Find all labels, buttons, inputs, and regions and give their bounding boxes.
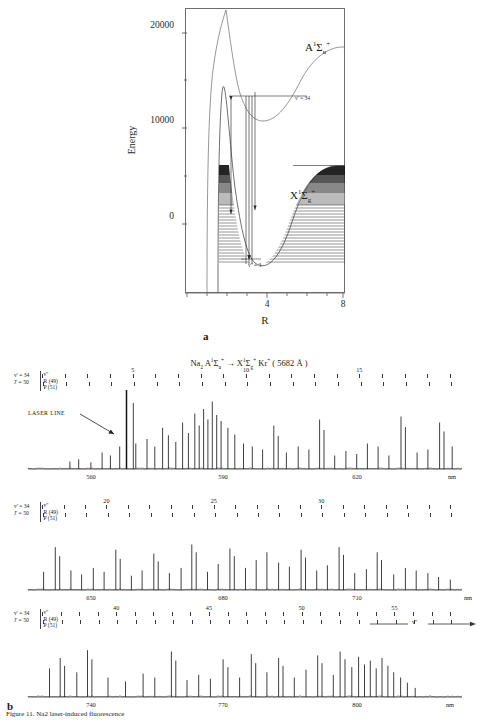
upper-state-label: A1Σu+ [305, 40, 330, 55]
vpp-tickrow-1-lower [0, 382, 498, 389]
wl-tick-680: 680 [218, 594, 228, 601]
spectrum-trace-3 [0, 628, 498, 700]
y-axis-label: Energy [126, 126, 137, 155]
wl-tick-590: 590 [218, 473, 228, 480]
wavelength-axis-1: 560 590 620 nm [0, 472, 498, 486]
ytick-label-0: 0 [120, 211, 174, 221]
wl-tick-650: 650 [86, 594, 96, 601]
wl-tick-710: 710 [352, 594, 362, 601]
vpp-tickrow-2-lower [0, 513, 498, 520]
wavelength-axis-2: 650 680 710 nm [0, 593, 498, 607]
wl-tick-800: 800 [352, 701, 362, 708]
wl-unit-2: nm [464, 594, 472, 601]
panel-b-spectra: Na2 A1Σu+ → X1Σg+ Kr+ ( 5682 Å ) v' = 34… [0, 348, 498, 723]
ytick-label-20000: 20000 [120, 20, 174, 30]
spectrum-trace-2 [0, 521, 498, 593]
xtick-label-4: 4 [265, 299, 270, 309]
wl-tick-620: 620 [352, 473, 362, 480]
upper-vib-level-label: v' = 34 [295, 95, 310, 101]
panel-a-label: a [203, 330, 209, 342]
y-axis-ticks [179, 8, 187, 293]
ytick-label-10000: 10000 [120, 115, 174, 125]
vpp-axis-label: v'' [412, 619, 417, 625]
wl-tick-770: 770 [218, 701, 228, 708]
wl-tick-560: 560 [86, 473, 96, 480]
spectrum-trace-1 [0, 390, 498, 472]
vpp-tickrow-2-upper: 202530 [0, 505, 498, 512]
panel-a-potential-curves: 20000 10000 0 Energy 4 8 R A1Σu+ X1Σg+ v… [0, 0, 498, 345]
xtick-label-8: 8 [341, 299, 346, 309]
wl-unit-3: nm [446, 701, 454, 708]
x-axis-label: R [261, 314, 268, 326]
lower-state-label: X1Σg+ [290, 188, 315, 203]
figure-caption: Figure 11. Na2 laser-induced fluorescenc… [6, 710, 492, 718]
vpp-tickrow-1-upper: 51015 [0, 374, 498, 381]
lower-vib-level-label: v'' = 3 [248, 262, 261, 268]
wl-unit-1: nm [448, 473, 456, 480]
wl-tick-740: 740 [86, 701, 96, 708]
